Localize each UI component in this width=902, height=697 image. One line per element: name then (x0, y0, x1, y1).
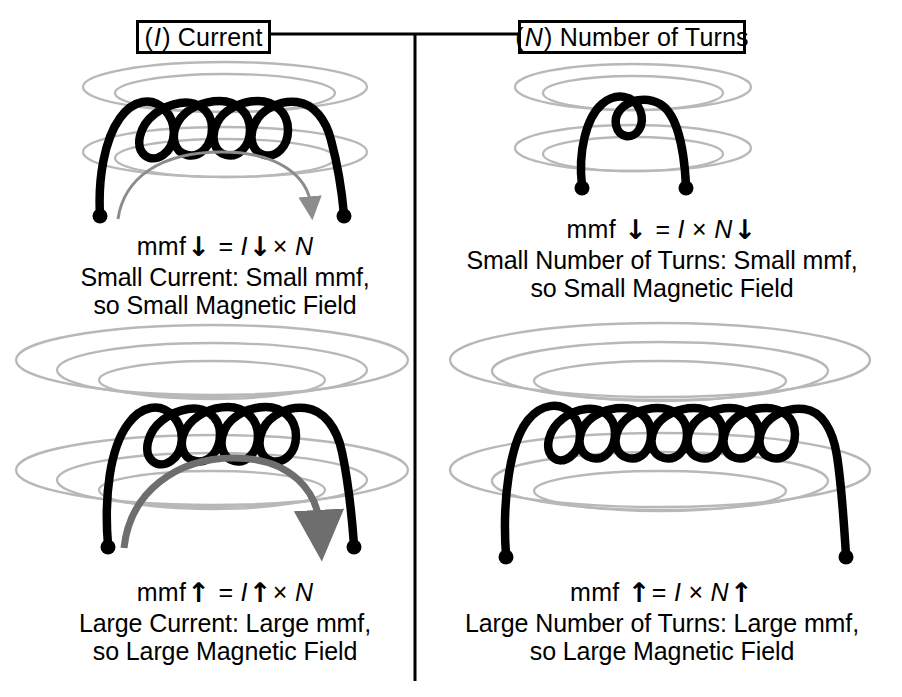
panel-large-turns-graphic (450, 323, 870, 565)
up-arrow-icon: ↑ (186, 577, 211, 608)
formula-large-current: mmf↑ = I↑× N (55, 578, 395, 609)
current-arrow-small-current (118, 152, 311, 219)
symbol-N: N (714, 215, 732, 243)
header-box-turns: (N) Number of Turns (518, 20, 746, 54)
caption-line-1: Large Current: Large mmf, (55, 609, 395, 638)
formula-small-turns: mmf ↓ = I × N↓ (452, 215, 872, 246)
caption-line-1: Small Number of Turns: Small mmf, (452, 246, 872, 275)
up-arrow-icon: ↑ (627, 577, 652, 608)
symbol-I: I (241, 578, 248, 606)
panel-small-turns-graphic (515, 64, 751, 196)
header-turns-label: (N) Number of Turns (515, 25, 749, 50)
symbol-I: I (241, 232, 248, 260)
symbol-I: I (674, 578, 681, 606)
down-arrow-icon: ↓ (248, 231, 273, 262)
diagram-canvas: (I) Current (N) Number of Turns mmf↓ = I… (0, 0, 902, 697)
terminal-dots-small-current (93, 209, 352, 224)
caption-line-1: Small Current: Small mmf, (55, 263, 395, 292)
formula-small-current: mmf↓ = I↓× N (55, 232, 395, 263)
symbol-N: N (295, 232, 313, 260)
formula-large-turns: mmf ↑= I × N↑ (452, 578, 872, 609)
caption-line-1: Large Number of Turns: Large mmf, (452, 609, 872, 638)
symbol-N: N (711, 578, 729, 606)
up-arrow-icon: ↑ (248, 577, 273, 608)
caption-line-2: so Small Magnetic Field (55, 291, 395, 320)
terminal-dots-large-turns (499, 550, 854, 565)
terminal-dots-small-turns (575, 181, 694, 196)
symbol-I: I (153, 23, 162, 51)
down-arrow-icon: ↓ (733, 214, 758, 245)
caption-line-2: so Large Magnetic Field (55, 637, 395, 666)
down-arrow-icon: ↓ (186, 231, 211, 262)
caption-large-turns: mmf ↑= I × N↑ Large Number of Turns: Lar… (452, 578, 872, 666)
caption-small-turns: mmf ↓ = I × N↓ Small Number of Turns: Sm… (452, 215, 872, 303)
up-arrow-icon: ↑ (729, 577, 754, 608)
panel-small-current-graphic (83, 62, 367, 224)
caption-line-2: so Small Magnetic Field (452, 274, 872, 303)
terminal-dots-large-current (101, 540, 362, 555)
header-current-label: (I) Current (144, 25, 262, 50)
symbol-N: N (295, 578, 313, 606)
panel-large-current-graphic (16, 325, 408, 555)
header-box-current: (I) Current (136, 20, 271, 54)
caption-large-current: mmf↑ = I↑× N Large Current: Large mmf, s… (55, 578, 395, 666)
field-lines-small-turns (515, 64, 751, 171)
symbol-N: N (524, 23, 544, 51)
down-arrow-icon: ↓ (623, 214, 648, 245)
caption-small-current: mmf↓ = I↓× N Small Current: Small mmf, s… (55, 232, 395, 320)
coil-wire-small-current (100, 101, 344, 215)
caption-line-2: so Large Magnetic Field (452, 637, 872, 666)
symbol-I: I (678, 215, 685, 243)
